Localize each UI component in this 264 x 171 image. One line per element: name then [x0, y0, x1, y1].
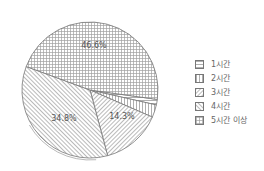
slice-label-3-hours: 14.3% [109, 112, 135, 121]
slice-label-4-hours: 34.8% [51, 114, 77, 123]
legend-item-2-hours: 2시간 [195, 71, 247, 85]
slice-label-5plus-hours: 46.6% [81, 41, 107, 50]
legend-item-5plus-hours: 5시간 이상 [195, 113, 247, 127]
legend-label: 3시간 [211, 88, 230, 97]
pattern-horizontal-icon [195, 60, 204, 69]
legend-item-1-hour: 1시간 [195, 57, 247, 71]
pattern-grid-icon [195, 116, 204, 125]
chart-legend: 1시간 2시간 3시간 4시간 5시간 이상 [195, 57, 247, 127]
pattern-vertical-icon [195, 74, 204, 83]
legend-label: 1시간 [211, 60, 230, 69]
legend-item-4-hours: 4시간 [195, 99, 247, 113]
legend-label: 5시간 이상 [211, 116, 247, 125]
legend-item-3-hours: 3시간 [195, 85, 247, 99]
pattern-diagonal-forward-icon [195, 88, 204, 97]
legend-label: 4시간 [211, 102, 230, 111]
legend-label: 2시간 [211, 74, 230, 83]
pattern-diagonal-back-icon [195, 102, 204, 111]
pie-chart: 46.6% 34.8% 14.3% [0, 0, 180, 171]
